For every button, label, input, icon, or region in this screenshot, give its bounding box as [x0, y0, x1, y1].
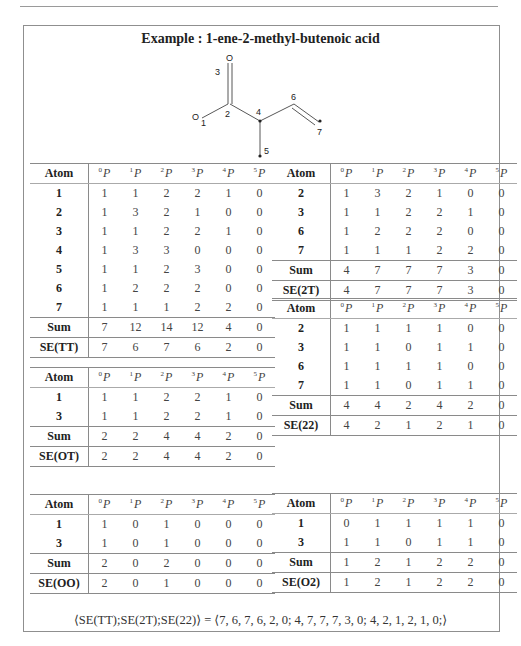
header-atom: Atom [272, 299, 331, 319]
cell-value: 0 [213, 260, 244, 279]
sum-value: 4 [182, 427, 213, 447]
cell-value: 1 [89, 515, 121, 535]
sum-value: 7 [89, 318, 121, 338]
header-p5: 5P [486, 164, 517, 184]
sum-value: 2 [424, 553, 455, 573]
atom-6-label: 6 [291, 92, 296, 102]
sum-row: Sum477730 [272, 261, 517, 281]
sum-value: 2 [89, 427, 121, 447]
cell-value: 1 [89, 222, 121, 241]
se-row: SE(OO)201000 [30, 574, 275, 594]
cell-value: 2 [151, 260, 182, 279]
sum-value: 1 [331, 553, 363, 573]
sum-value: 0 [486, 261, 517, 281]
sum-label: Sum [272, 396, 331, 416]
cell-value: 0 [182, 534, 213, 554]
cell-value: 2 [213, 298, 244, 318]
se-value: 6 [120, 338, 151, 358]
sum-label: Sum [272, 553, 331, 573]
cell-value: 1 [393, 241, 424, 261]
cell-value: 1 [455, 376, 486, 396]
sum-value: 0 [182, 554, 213, 574]
molecule-structure: O 1 O 3 2 4 5 6 7 [180, 48, 350, 158]
cell-value: 1 [89, 260, 121, 279]
sum-value: 0 [213, 554, 244, 574]
se-value: 2 [455, 573, 486, 593]
cell-value: 2 [182, 222, 213, 241]
cell-value: 1 [213, 407, 244, 427]
cell-value: 1 [89, 279, 121, 298]
cell-value: 2 [182, 298, 213, 318]
sum-value: 2 [455, 553, 486, 573]
cell-value: 0 [120, 534, 151, 554]
cell-value: 1 [120, 388, 151, 408]
cell-value: 2 [151, 203, 182, 222]
header-p2: 2P [393, 164, 424, 184]
cell-value: 1 [331, 222, 363, 241]
atom-5-dot [258, 154, 261, 157]
cell-value: 0 [486, 319, 517, 339]
cell-value: 2 [393, 222, 424, 241]
table-row: 3110110 [272, 338, 517, 357]
header-p1: 1P [362, 494, 393, 514]
se-value: 2 [120, 447, 151, 467]
header-p4: 4P [213, 164, 244, 184]
row-atom-label: 4 [30, 241, 89, 260]
cell-value: 1 [213, 222, 244, 241]
cell-value: 1 [424, 533, 455, 553]
cell-value: 0 [486, 338, 517, 357]
cell-value: 0 [182, 515, 213, 535]
table-row: 6111100 [272, 357, 517, 376]
table-row: 2111100 [272, 319, 517, 339]
sum-value: 2 [213, 427, 244, 447]
cell-value: 1 [331, 533, 363, 553]
sum-value: 7 [424, 261, 455, 281]
row-atom-label: 2 [30, 203, 89, 222]
row-atom-label: 3 [30, 222, 89, 241]
cell-value: 1 [362, 203, 393, 222]
row-atom-label: 1 [30, 515, 89, 535]
cell-value: 1 [393, 319, 424, 339]
cell-value: 0 [393, 376, 424, 396]
sum-value: 0 [244, 427, 275, 447]
cell-value: 1 [362, 514, 393, 534]
cell-value: 1 [89, 184, 121, 204]
cell-value: 0 [486, 241, 517, 261]
cell-value: 1 [424, 376, 455, 396]
table-row: 5112300 [30, 260, 275, 279]
atom-3-label: 3 [215, 67, 220, 77]
cell-value: 1 [213, 184, 244, 204]
cell-value: 0 [244, 534, 275, 554]
se-label: SE(22) [272, 416, 331, 436]
cell-value: 1 [89, 241, 121, 260]
sum-value: 4 [424, 396, 455, 416]
atom-7-dot [318, 119, 321, 122]
header-atom: Atom [272, 164, 331, 184]
header-p1: 1P [120, 164, 151, 184]
sum-value: 0 [244, 318, 275, 338]
sum-value: 2 [393, 396, 424, 416]
cell-value: 1 [331, 338, 363, 357]
se-value: 2 [424, 416, 455, 436]
row-atom-label: 7 [272, 376, 331, 396]
header-atom: Atom [272, 494, 331, 514]
row-atom-label: 6 [30, 279, 89, 298]
table-se-o2: Atom0P1P2P3P4P5P10111103110110Sum121220S… [272, 493, 517, 593]
header-p4: 4P [455, 164, 486, 184]
header-p0: 0P [89, 368, 121, 388]
cell-value: 0 [244, 184, 275, 204]
cell-value: 3 [182, 260, 213, 279]
se-row: SE(O2)121220 [272, 573, 517, 593]
cell-value: 0 [213, 515, 244, 535]
cell-value: 1 [120, 407, 151, 427]
header-p3: 3P [424, 494, 455, 514]
sum-row: Sum712141240 [30, 318, 275, 338]
row-atom-label: 3 [30, 407, 89, 427]
cell-value: 2 [151, 407, 182, 427]
se-value: 0 [213, 574, 244, 594]
header-p2: 2P [151, 368, 182, 388]
atom-o3-symbol: O [226, 53, 233, 63]
row-atom-label: 2 [272, 319, 331, 339]
row-atom-label: 7 [272, 241, 331, 261]
header-p2: 2P [393, 494, 424, 514]
